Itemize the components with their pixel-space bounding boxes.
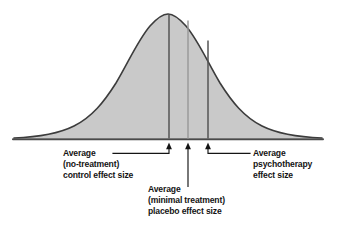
callout-control-line2: (no-treatment) <box>63 159 133 170</box>
callout-psychotherapy-line1: Average <box>253 148 312 159</box>
leader-psychotherapy <box>205 143 250 154</box>
callout-placebo-line1: Average <box>148 184 225 195</box>
arrowhead-placebo-icon <box>185 143 191 150</box>
arrowhead-psychotherapy-icon <box>205 143 211 150</box>
leader-placebo <box>185 143 191 187</box>
callout-placebo: Average (minimal treatment) placebo effe… <box>148 184 225 218</box>
callout-placebo-line2: (minimal treatment) <box>148 195 225 206</box>
callout-control-line1: Average <box>63 148 133 159</box>
callout-control: Average (no-treatment) control effect si… <box>63 148 133 182</box>
normal-curve-area <box>14 14 322 138</box>
callout-placebo-line3: placebo effect size <box>148 206 225 217</box>
distribution-figure: Average (no-treatment) control effect si… <box>0 0 338 235</box>
callout-psychotherapy: Average psychotherapy effect size <box>253 148 312 182</box>
arrowhead-control-icon <box>166 143 172 150</box>
callout-psychotherapy-line3: effect size <box>253 170 312 181</box>
callout-psychotherapy-line2: psychotherapy <box>253 159 312 170</box>
callout-control-line3: control effect size <box>63 170 133 181</box>
